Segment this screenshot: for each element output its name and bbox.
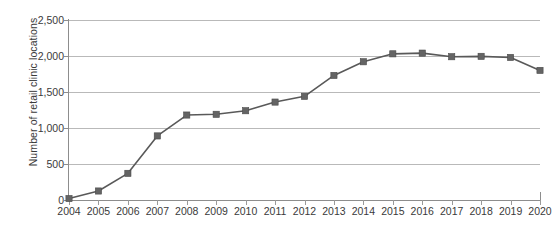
series-polyline (69, 53, 540, 198)
retail-clinic-locations-chart: Number of retail clinic locations 05001,… (0, 0, 553, 233)
data-point-2018 (478, 53, 484, 59)
data-point-2010 (243, 108, 249, 114)
data-point-2013 (331, 72, 337, 78)
data-point-2017 (449, 54, 455, 60)
data-point-2005 (95, 188, 101, 194)
data-point-2020 (537, 67, 543, 73)
data-point-2004 (66, 195, 72, 201)
data-point-2009 (213, 111, 219, 117)
data-point-2006 (125, 170, 131, 176)
data-point-2012 (301, 93, 307, 99)
data-point-2019 (507, 54, 513, 60)
data-point-2007 (154, 133, 160, 139)
data-series-line (0, 0, 553, 233)
data-point-2016 (419, 50, 425, 56)
data-point-2014 (360, 59, 366, 65)
data-point-2015 (390, 51, 396, 57)
data-point-2011 (272, 99, 278, 105)
data-point-2008 (184, 112, 190, 118)
